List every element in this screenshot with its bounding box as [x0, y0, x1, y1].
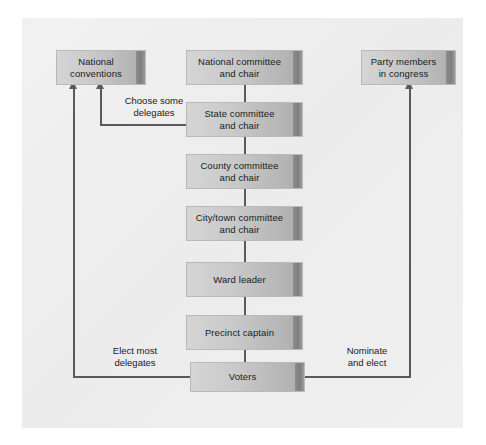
connector-voters-to-conventions-horizontal [73, 376, 191, 378]
connector-voters-to-conventions-vertical [73, 88, 75, 378]
node-national-conventions[interactable]: National conventions [56, 50, 146, 85]
node-ward-leader[interactable]: Ward leader [186, 262, 303, 297]
connector-state-to-county [244, 137, 246, 154]
edge-label-choose-some-delegates: Choose some delegates [106, 95, 202, 118]
node-county-committee-label: County committee and chair [200, 160, 278, 183]
edge-label-elect-most-delegates: Elect most delegates [88, 345, 182, 368]
node-national-conventions-label: National conventions [70, 56, 122, 79]
node-city-town-committee-label: City/town committee and chair [196, 212, 283, 235]
edge-label-nominate-and-elect: Nominate and elect [322, 345, 412, 368]
node-national-committee[interactable]: National committee and chair [186, 50, 303, 85]
node-precinct-captain-label: Precinct captain [205, 327, 274, 339]
node-party-members-in-congress-label: Party members in congress [371, 56, 437, 79]
connector-voters-to-congress-horizontal [304, 376, 411, 378]
connector-voters-to-congress-vertical [409, 88, 411, 378]
node-ward-leader-label: Ward leader [213, 274, 266, 286]
node-voters[interactable]: Voters [190, 362, 305, 392]
node-precinct-captain[interactable]: Precinct captain [186, 315, 303, 350]
connector-ward-to-precinct [244, 297, 246, 315]
connector-state-to-conventions-horizontal [100, 124, 187, 126]
node-national-committee-label: National committee and chair [198, 56, 281, 79]
connector-state-to-conventions-vertical [100, 88, 102, 125]
diagram-canvas: Choose some delegates Elect most delegat… [0, 0, 486, 445]
node-voters-label: Voters [229, 371, 257, 383]
node-state-committee-label: State committee and chair [204, 108, 274, 131]
connector-national-to-state [244, 85, 246, 102]
connector-county-to-citytown [244, 189, 246, 206]
node-city-town-committee[interactable]: City/town committee and chair [186, 206, 303, 241]
node-county-committee[interactable]: County committee and chair [186, 154, 303, 189]
connector-precinct-to-voters [244, 350, 246, 362]
connector-citytown-to-ward [244, 241, 246, 262]
node-state-committee[interactable]: State committee and chair [186, 102, 303, 137]
node-party-members-in-congress[interactable]: Party members in congress [361, 50, 456, 85]
